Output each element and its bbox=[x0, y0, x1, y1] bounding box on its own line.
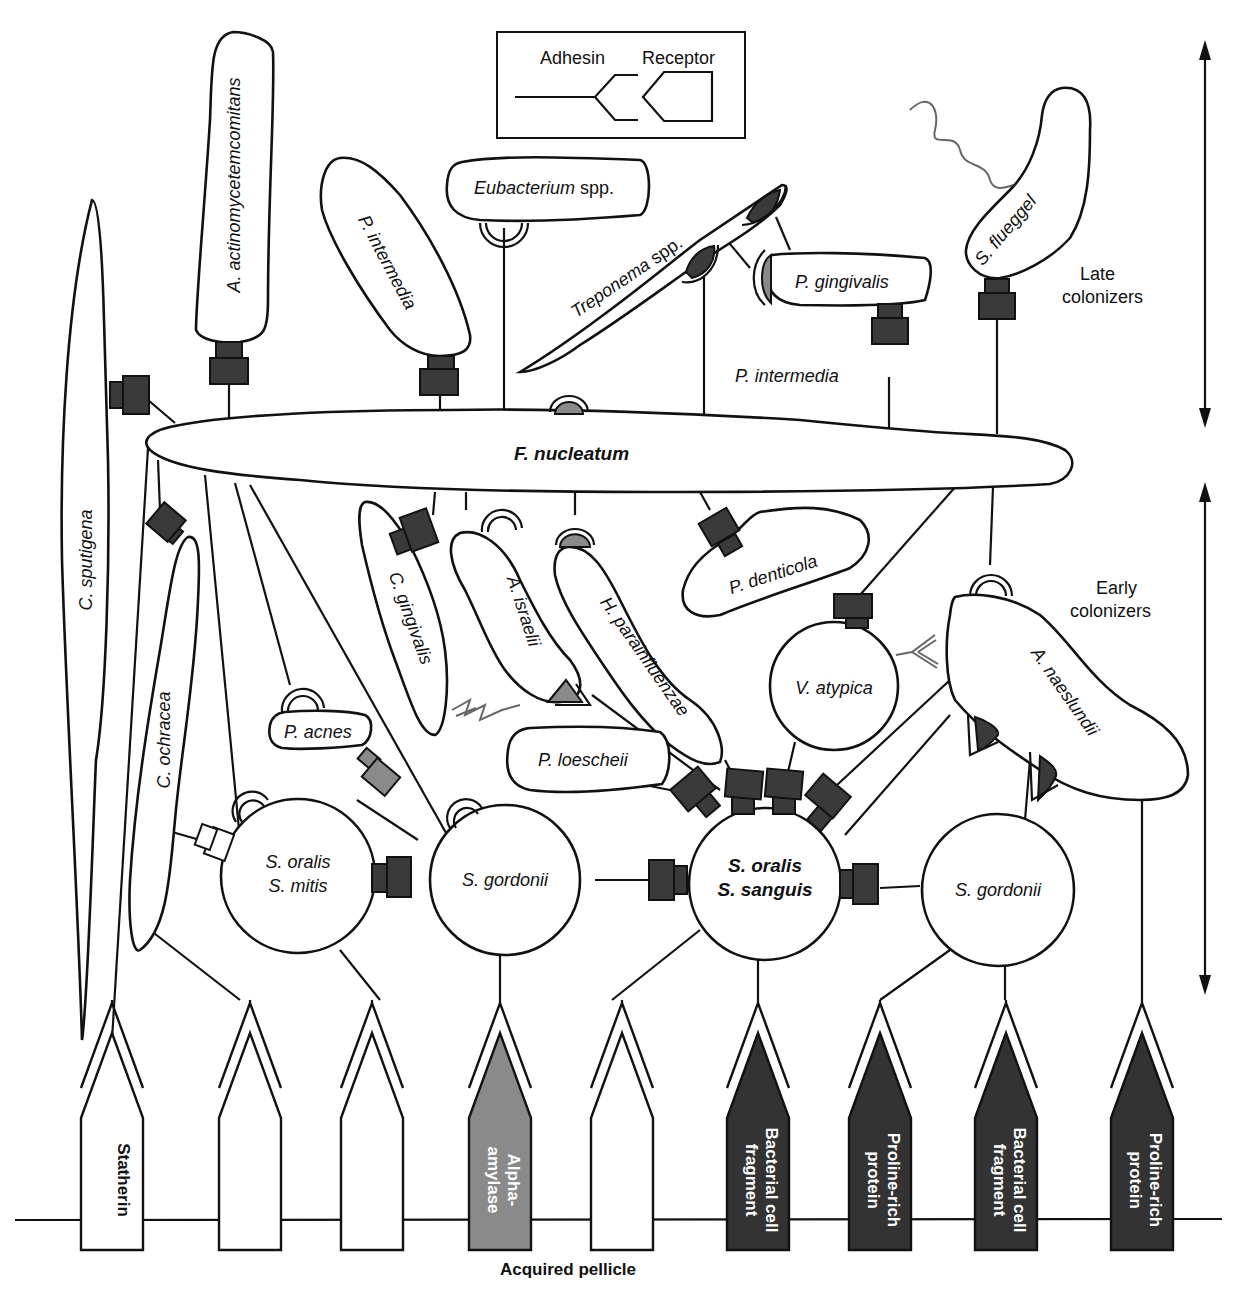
receptor-v-atypica bbox=[896, 635, 938, 668]
cell-p-loescheii[interactable]: P. loescheii bbox=[507, 727, 669, 792]
adhesin-c-ochracea bbox=[146, 502, 185, 544]
pellicle-receptor-label: Bacterial cell bbox=[762, 1128, 781, 1233]
s-oralis-mitis-label-1: S. oralis bbox=[265, 852, 330, 872]
adhesin-p-denticola bbox=[699, 508, 743, 556]
cell-p-gingivalis[interactable]: P. gingivalis bbox=[768, 253, 931, 305]
cell-s-gordonii-left[interactable]: S. gordonii bbox=[430, 805, 580, 955]
adhesin-p-intermedia bbox=[420, 356, 458, 395]
flagellum-icon bbox=[910, 102, 1030, 188]
p-acnes-label: P. acnes bbox=[284, 722, 352, 742]
adhesin-p-acnes bbox=[358, 748, 401, 796]
eubacterium-label: Eubacterium spp. bbox=[474, 178, 614, 198]
pellicle-receptor-label: protein bbox=[1126, 1151, 1145, 1209]
legend-box: Adhesin Receptor bbox=[497, 32, 745, 138]
adhesin-c-sputigena bbox=[110, 376, 149, 414]
f-nucleatum-label: F. nucleatum bbox=[514, 443, 629, 464]
cell-a-actinomycetemcomitans[interactable]: A. actinomycetemcomitans bbox=[196, 32, 273, 343]
p-loescheii-label: P. loescheii bbox=[538, 750, 629, 770]
pellicle-receptor-label: fragment bbox=[990, 1144, 1009, 1217]
pellicle-receptor-0: Statherin bbox=[81, 1000, 143, 1250]
pellicle-receptors: StatherinAlpha-amylaseBacterial cellfrag… bbox=[81, 1000, 1173, 1250]
pellicle-receptor-7: Bacterial cellfragment bbox=[975, 1000, 1037, 1250]
early-colonizers-arrow bbox=[1199, 482, 1211, 995]
pellicle-receptor-1 bbox=[219, 1000, 281, 1250]
pellicle-receptor-label: Proline-rich bbox=[1146, 1133, 1165, 1227]
cell-s-flueggel[interactable]: S. flueggel bbox=[910, 88, 1090, 278]
s-gordonii-left-label: S. gordonii bbox=[462, 870, 549, 890]
cell-s-oralis-sanguis[interactable]: S. oralis S. sanguis bbox=[689, 808, 841, 960]
pellicle-receptor-6: Proline-richprotein bbox=[849, 1000, 911, 1250]
adhesin-f-nucleatum-top bbox=[555, 402, 583, 414]
late-colonizers-arrow bbox=[1199, 40, 1211, 428]
coaggregation-diagram: Adhesin Receptor Late colonizers Early c… bbox=[0, 0, 1245, 1293]
pellicle-receptor-2 bbox=[341, 1000, 403, 1250]
adhesin-c-gingivalis bbox=[390, 508, 439, 554]
s-oralis-mitis-label-2: S. mitis bbox=[268, 876, 327, 896]
zigzag-receptor-icon bbox=[452, 700, 520, 720]
v-atypica-label: V. atypica bbox=[795, 678, 873, 698]
s-oralis-sanguis-label-1: S. oralis bbox=[728, 855, 802, 876]
pellicle-receptor-3: Alpha-amylase bbox=[469, 1000, 531, 1250]
pellicle-receptor-label: Bacterial cell bbox=[1010, 1128, 1029, 1233]
cell-f-nucleatum[interactable]: F. nucleatum bbox=[146, 410, 1072, 492]
pellicle-receptor-label: fragment bbox=[742, 1144, 761, 1217]
cell-c-sputigena[interactable]: C. sputigena bbox=[62, 200, 109, 1040]
legend-receptor-label: Receptor bbox=[642, 48, 715, 68]
cell-v-atypica[interactable]: V. atypica bbox=[770, 622, 898, 750]
adhesin-p-gingivalis bbox=[872, 304, 908, 344]
pellicle-receptor-label: Alpha- bbox=[504, 1154, 523, 1207]
p-intermedia-text: P. intermedia bbox=[735, 366, 839, 386]
cell-s-oralis-mitis[interactable]: S. oralis S. mitis bbox=[221, 799, 375, 953]
c-sputigena-label: C. sputigena bbox=[76, 509, 96, 610]
cell-p-acnes[interactable]: P. acnes bbox=[269, 711, 371, 749]
adhesin-s-oralis-mitis bbox=[372, 857, 411, 897]
c-ochracea-label: C. ochracea bbox=[154, 691, 174, 788]
pellicle-receptor-label: Statherin bbox=[114, 1143, 133, 1217]
legend-adhesin-label: Adhesin bbox=[540, 48, 605, 68]
early-label-1: Early bbox=[1096, 578, 1137, 598]
adhesin-a-actino bbox=[210, 342, 248, 384]
cell-a-naeslundii[interactable]: A. naeslundii bbox=[947, 595, 1188, 800]
pellicle-receptor-4 bbox=[591, 1000, 653, 1250]
adhesin-p-gingivalis-left bbox=[762, 255, 771, 303]
pellicle-receptor-5: Bacterial cellfragment bbox=[727, 1000, 789, 1250]
cell-s-gordonii-right[interactable]: S. gordonii bbox=[922, 814, 1074, 966]
adhesin-s-flueggel bbox=[979, 279, 1015, 319]
acquired-pellicle-title: Acquired pellicle bbox=[500, 1260, 636, 1279]
pellicle-receptor-label: Proline-rich bbox=[884, 1133, 903, 1227]
pellicle-receptor-label: protein bbox=[864, 1151, 883, 1209]
a-actino-label: A. actinomycetemcomitans bbox=[224, 77, 244, 293]
late-label-1: Late bbox=[1080, 264, 1115, 284]
pellicle-receptor-8: Proline-richprotein bbox=[1111, 1000, 1173, 1250]
late-label-2: colonizers bbox=[1062, 287, 1143, 307]
adhesin-h-parainfluenzae bbox=[560, 534, 590, 547]
p-gingivalis-label: P. gingivalis bbox=[795, 272, 889, 292]
pellicle-receptor-label: amylase bbox=[484, 1146, 503, 1213]
cell-eubacterium[interactable]: Eubacterium spp. bbox=[447, 157, 649, 221]
s-oralis-sanguis-label-2: S. sanguis bbox=[717, 879, 812, 900]
early-label-2: colonizers bbox=[1070, 601, 1151, 621]
s-gordonii-right-label: S. gordonii bbox=[955, 880, 1042, 900]
